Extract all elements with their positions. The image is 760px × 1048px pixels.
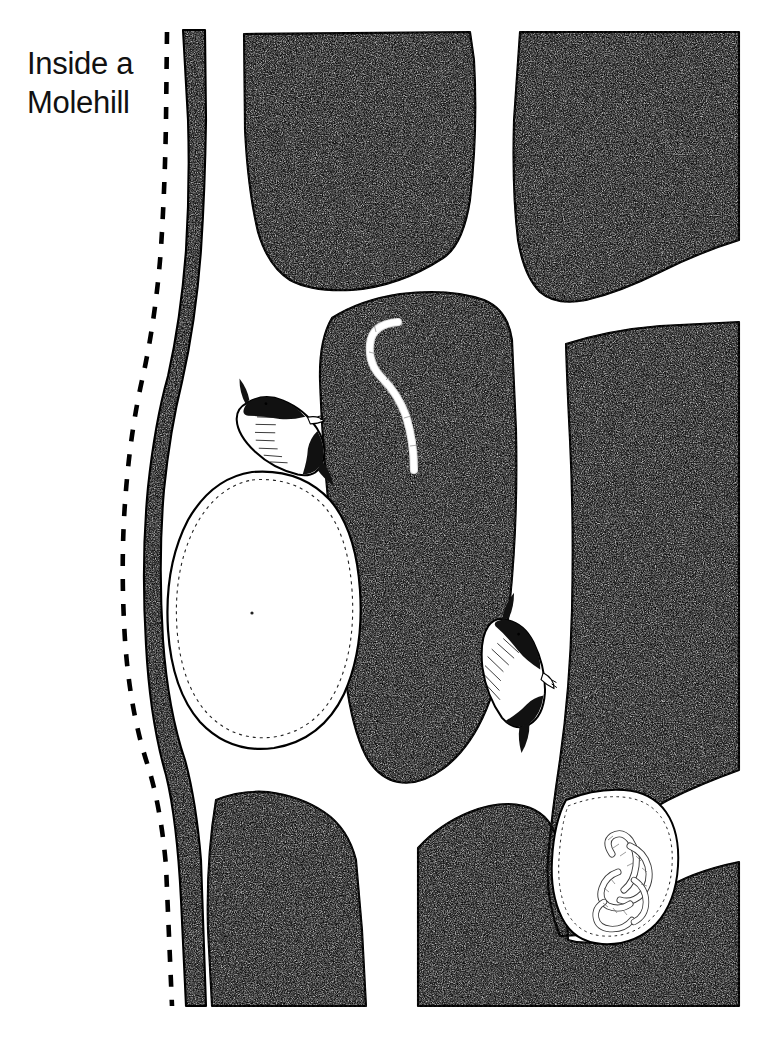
main-nest-chamber: [167, 472, 360, 749]
figure-root: Inside a Molehill: [0, 0, 760, 1048]
larder-chamber: [552, 790, 679, 944]
molehill-cutaway-illustration: [0, 0, 760, 1048]
